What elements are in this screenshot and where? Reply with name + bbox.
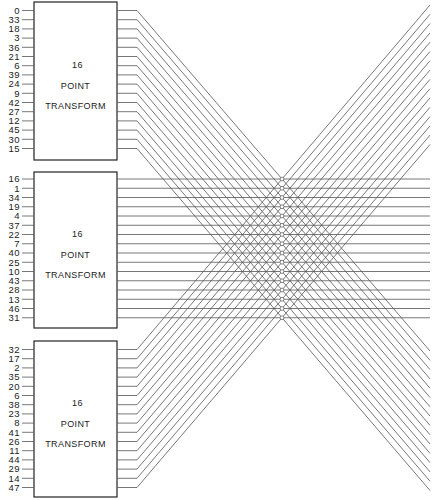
descending-diagonal-wire bbox=[137, 57, 430, 398]
transform-block-3: 16POINTTRANSFORM bbox=[34, 341, 117, 497]
ascending-diagonal-wire bbox=[137, 33, 430, 377]
ascending-diagonal-wire bbox=[137, 70, 430, 414]
transform-block-1: 16POINTTRANSFORM bbox=[34, 2, 117, 160]
junction-node bbox=[280, 205, 284, 209]
junction-node bbox=[280, 242, 284, 246]
descending-diagonal-wire bbox=[137, 47, 430, 388]
junction-node bbox=[280, 316, 284, 320]
input-index-labels: 0331833621639249422712453015161341943722… bbox=[8, 5, 20, 493]
junction-node bbox=[280, 251, 284, 255]
block-point-label: POINT bbox=[61, 81, 91, 91]
junction-node bbox=[280, 214, 284, 218]
input-index-label: 47 bbox=[8, 482, 20, 493]
junction-node bbox=[280, 307, 284, 311]
block-size-label: 16 bbox=[72, 398, 83, 408]
prime-factor-fft-diagram: 16POINTTRANSFORM16POINTTRANSFORM16POINTT… bbox=[0, 0, 438, 500]
descending-diagonal-wire bbox=[137, 121, 430, 463]
block-transform-label: TRANSFORM bbox=[45, 439, 106, 449]
junction-node bbox=[280, 186, 284, 190]
descending-diagonal-wire bbox=[137, 130, 430, 472]
junction-node bbox=[280, 196, 284, 200]
ascending-diagonal-wire bbox=[137, 42, 430, 386]
junction-node bbox=[280, 260, 284, 264]
block-point-label: POINT bbox=[61, 419, 91, 429]
transform-block-2: 16POINTTRANSFORM bbox=[34, 172, 117, 328]
block-size-label: 16 bbox=[72, 229, 83, 239]
interconnect-wires bbox=[22, 5, 430, 491]
junction-node bbox=[280, 177, 284, 181]
descending-diagonal-wire bbox=[137, 38, 430, 379]
ascending-diagonal-wire bbox=[137, 89, 430, 433]
block-size-label: 16 bbox=[72, 60, 83, 70]
descending-diagonal-wire bbox=[137, 84, 430, 425]
ascending-diagonal-wire bbox=[137, 117, 430, 460]
junction-node bbox=[280, 223, 284, 227]
input-index-label: 31 bbox=[8, 312, 20, 323]
descending-diagonal-wire bbox=[137, 66, 430, 407]
block-transform-label: TRANSFORM bbox=[45, 101, 106, 111]
junction-node bbox=[280, 288, 284, 292]
block-point-label: POINT bbox=[61, 250, 91, 260]
ascending-diagonal-wire bbox=[137, 61, 430, 405]
junction-nodes bbox=[280, 177, 284, 320]
descending-diagonal-wire bbox=[137, 103, 430, 444]
block-transform-label: TRANSFORM bbox=[45, 270, 106, 280]
input-index-label: 15 bbox=[8, 143, 20, 154]
ascending-diagonal-wire bbox=[137, 98, 430, 442]
ascending-diagonal-wire bbox=[137, 51, 430, 395]
junction-node bbox=[280, 297, 284, 301]
junction-node bbox=[280, 279, 284, 283]
ascending-diagonal-wire bbox=[137, 107, 430, 450]
descending-diagonal-wire bbox=[137, 112, 430, 454]
junction-node bbox=[280, 270, 284, 274]
descending-diagonal-wire bbox=[137, 93, 430, 434]
junction-node bbox=[280, 233, 284, 237]
ascending-diagonal-wire bbox=[137, 79, 430, 423]
transform-blocks: 16POINTTRANSFORM16POINTTRANSFORM16POINTT… bbox=[34, 2, 117, 497]
descending-diagonal-wire bbox=[137, 75, 430, 416]
